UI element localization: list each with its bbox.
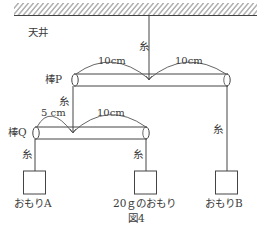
weight-20g-box (135, 171, 157, 194)
rod-q (33, 115, 149, 139)
rod-p-label: 棒P (45, 74, 62, 85)
figure-4-diagram: 天井 糸 10cm 10cm 棒P 糸 5 cm 10cm 棒Q 糸 糸 糸 お… (0, 0, 257, 226)
weight-b-box (216, 171, 238, 194)
string-label-q-right: 糸 (133, 149, 143, 160)
rod-q-right-length: 10cm (97, 108, 125, 118)
rod-p (72, 62, 230, 86)
weight-a-label: おもりA (14, 198, 52, 209)
rod-p-left-length: 10cm (98, 56, 126, 66)
rod-p-right-length: 10cm (175, 56, 203, 66)
rod-q-left-length: 5 cm (41, 108, 66, 118)
weight-20g-label: 20ｇのおもり (113, 198, 176, 209)
string-label-p-left: 糸 (59, 96, 69, 107)
string-label-top: 糸 (139, 41, 149, 52)
string-label-p-right: 糸 (213, 124, 223, 135)
ceiling (14, 3, 257, 16)
rod-q-label: 棒Q (8, 127, 27, 138)
weight-b-label: おもりB (205, 198, 243, 209)
string-label-q-left: 糸 (22, 149, 32, 160)
figure-caption: 図4 (128, 213, 145, 224)
weight-a-box (24, 171, 46, 194)
ceiling-label: 天井 (28, 27, 48, 38)
